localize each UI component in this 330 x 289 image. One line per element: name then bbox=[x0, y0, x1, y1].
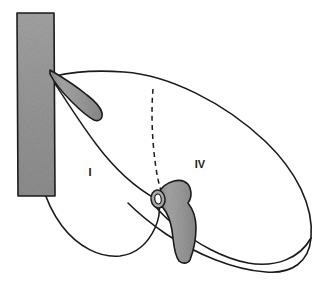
segment-1-label: I bbox=[88, 166, 91, 178]
hepatic-vein-branch bbox=[50, 70, 102, 121]
fissure-dashed bbox=[152, 89, 164, 198]
segment-4-label: IV bbox=[195, 158, 206, 170]
portal-structure bbox=[159, 180, 196, 263]
liver-anatomy-diagram: I IV bbox=[0, 0, 330, 289]
diagram-canvas: I IV bbox=[0, 0, 330, 289]
inferior-vena-cava bbox=[17, 13, 55, 196]
